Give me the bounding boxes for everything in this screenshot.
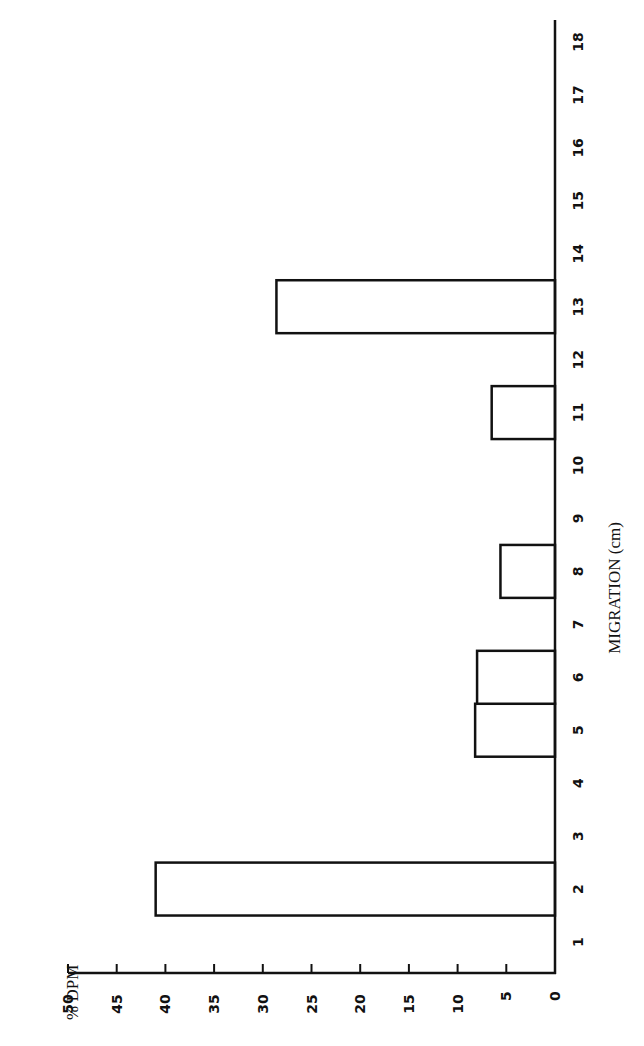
value-tick-label: 5 [498,991,514,1001]
category-tick-label: 4 [570,778,586,788]
bars-group [156,280,555,915]
category-axis-labels: 123456789101112131415161718 [570,32,586,947]
bar [500,545,555,598]
category-tick-label: 5 [570,725,586,735]
category-tick-label: 6 [570,672,586,682]
bar [492,386,555,439]
value-tick-label: 45 [109,994,125,1013]
bar-chart: 05101520253035404550 1234567891011121314… [0,0,644,1046]
category-tick-label: 12 [570,350,586,369]
value-axis-ticks: 05101520253035404550 [60,964,563,1014]
category-tick-label: 7 [570,619,586,629]
x-axis-title: MIGRATION (cm) [605,522,624,654]
value-tick-label: 40 [157,994,173,1014]
bar [156,863,555,916]
category-tick-label: 17 [570,85,586,104]
category-tick-label: 9 [570,514,586,524]
bar [477,651,555,704]
value-tick-label: 35 [206,994,222,1013]
value-tick-label: 25 [304,994,320,1013]
value-tick-label: 30 [255,994,271,1014]
category-tick-label: 16 [570,138,586,157]
value-tick-label: 15 [401,994,417,1013]
value-tick-label: 20 [352,994,368,1014]
category-tick-label: 3 [570,831,586,841]
bar [475,704,555,757]
category-tick-label: 15 [570,191,586,210]
category-tick-label: 1 [570,937,586,947]
value-tick-label: 10 [450,994,466,1014]
category-tick-label: 13 [570,297,586,316]
category-tick-label: 8 [570,567,586,577]
y-axis-title: % DPM [63,965,82,1020]
category-tick-label: 10 [570,456,586,476]
category-tick-label: 11 [570,403,586,422]
category-tick-label: 2 [570,884,586,894]
category-tick-label: 14 [570,244,586,264]
value-tick-label: 0 [547,991,563,1001]
bar [276,280,555,333]
category-tick-label: 18 [570,32,586,51]
